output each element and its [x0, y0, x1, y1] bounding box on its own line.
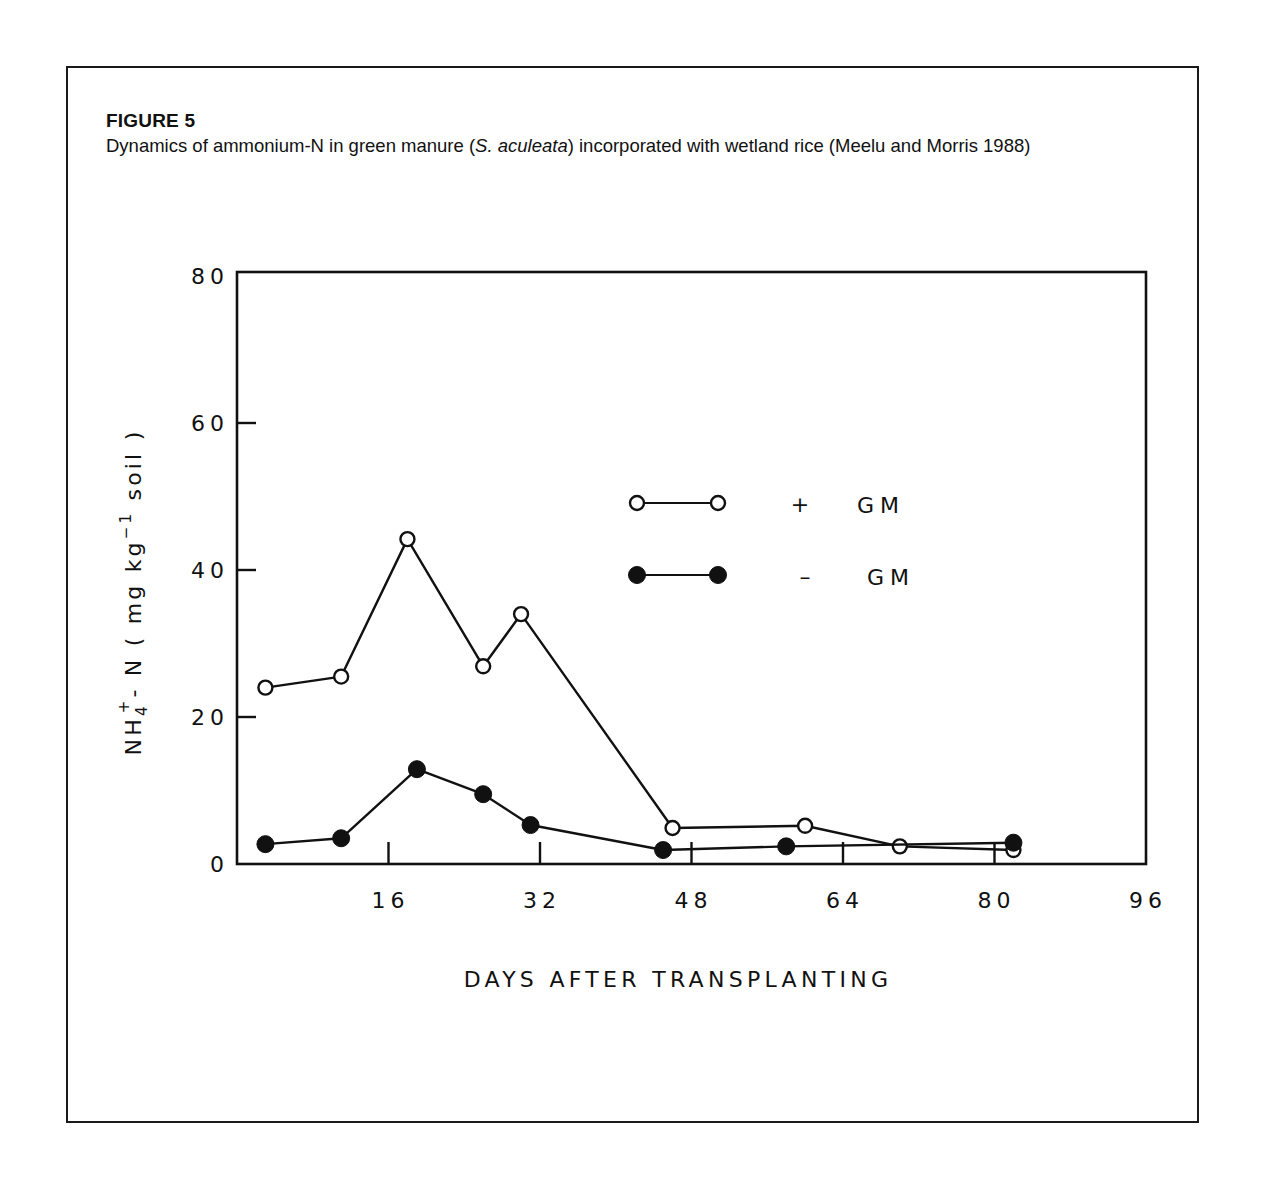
y-axis-title: NH4+- N ( mg kg−1 soil ) [115, 429, 151, 756]
x-tick-label: 32 [523, 888, 561, 913]
x-tick-label: 96 [1129, 888, 1167, 913]
x-tick-label: 80 [978, 888, 1016, 913]
plot-border [237, 272, 1146, 864]
line-chart: 163248648096020406080 +GM–GM DAYS AFTER … [0, 0, 1262, 1188]
axis-ticks [237, 423, 995, 864]
legend: +GM–GM [629, 492, 916, 590]
filled-circle-marker [522, 817, 539, 834]
y-tick-label: 0 [210, 852, 229, 877]
legend-open-marker-icon [630, 496, 644, 510]
filled-circle-marker [655, 842, 672, 859]
x-tick-label: 48 [675, 888, 713, 913]
legend-filled-marker-icon [629, 567, 646, 584]
filled-circle-marker [1005, 834, 1022, 851]
y-tick-label: 80 [191, 264, 229, 289]
open-circle-marker [798, 819, 812, 833]
series-minus-gm [257, 761, 1022, 859]
filled-circle-marker [475, 786, 492, 803]
open-circle-marker [893, 839, 907, 853]
y-tick-label: 40 [191, 558, 229, 583]
axis-tick-labels: 163248648096020406080 [191, 264, 1167, 913]
x-axis-title: DAYS AFTER TRANSPLANTING [464, 967, 893, 992]
legend-item: +GM [630, 492, 905, 518]
legend-sign: – [800, 564, 817, 589]
legend-filled-marker-icon [710, 567, 727, 584]
open-circle-marker [400, 532, 414, 546]
filled-circle-marker [408, 761, 425, 778]
filled-circle-marker [333, 830, 350, 847]
legend-label: GM [857, 493, 905, 518]
open-circle-marker [514, 607, 528, 621]
open-circle-marker [666, 821, 680, 835]
open-circle-marker [334, 670, 348, 684]
plot-frame [237, 272, 1146, 864]
open-circle-marker [258, 681, 272, 695]
x-tick-label: 64 [826, 888, 864, 913]
legend-label: GM [867, 565, 915, 590]
y-tick-label: 60 [191, 411, 229, 436]
open-circle-marker [476, 659, 490, 673]
x-tick-label: 16 [372, 888, 410, 913]
y-tick-label: 20 [191, 705, 229, 730]
filled-circle-marker [257, 836, 274, 853]
legend-sign: + [791, 492, 815, 517]
filled-circle-marker [778, 838, 795, 855]
legend-open-marker-icon [711, 496, 725, 510]
legend-item: –GM [629, 564, 916, 590]
